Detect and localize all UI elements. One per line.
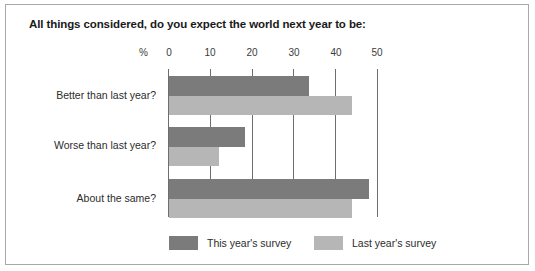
bar-same-this-year (169, 179, 369, 199)
legend-swatch-last-year (314, 236, 343, 250)
category-label-better: Better than last year? (6, 89, 156, 101)
category-label-worse: Worse than last year? (6, 139, 156, 151)
bar-worse-this-year (169, 127, 245, 147)
legend-label-last-year: Last year's survey (352, 237, 436, 249)
legend-label-this-year: This year's survey (207, 237, 291, 249)
category-label-same: About the same? (6, 192, 156, 204)
chart-legend: This year's survey Last year's survey (6, 234, 529, 256)
legend-item-this-year: This year's survey (169, 234, 291, 252)
legend-item-last-year: Last year's survey (314, 234, 436, 252)
bar-better-this-year (169, 76, 309, 96)
bar-worse-last-year (169, 147, 219, 166)
x-tick-label-50: 50 (371, 47, 382, 58)
gridline-50 (377, 69, 378, 217)
legend-swatch-this-year (169, 236, 198, 250)
chart-figure: All things considered, do you expect the… (5, 4, 529, 265)
bar-better-last-year (169, 96, 352, 115)
bar-same-last-year (169, 199, 352, 218)
x-tick-label-0: 0 (166, 47, 172, 58)
plot-area: % 0 10 20 30 40 50 Better than last year… (6, 5, 529, 265)
x-tick-label-30: 30 (288, 47, 299, 58)
x-tick-label-10: 10 (204, 47, 215, 58)
x-axis-unit-label: % (139, 47, 148, 58)
x-tick-label-40: 40 (330, 47, 341, 58)
x-tick-label-20: 20 (246, 47, 257, 58)
